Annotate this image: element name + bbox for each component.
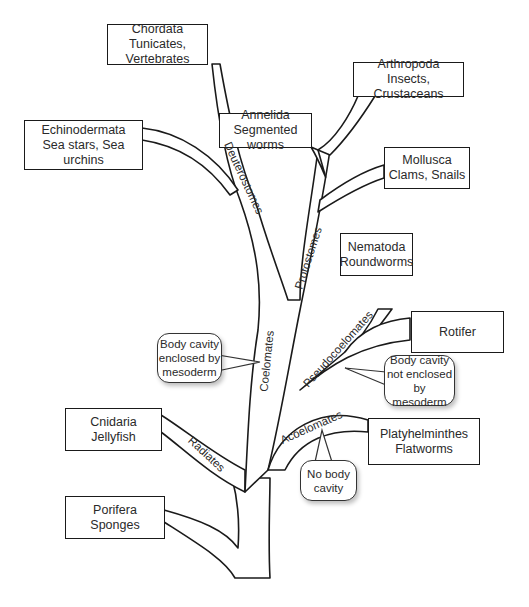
callout-coelom: Body cavity enclosed by mesoderm [157,333,222,383]
callout-text: not enclosed [387,367,452,381]
callout-acoelom: No body cavity [300,460,357,501]
callout-text: Body cavity [160,337,219,351]
callout-text: cavity [314,481,343,495]
callout-pointers [0,0,529,607]
callout-text: mesoderm [162,365,216,379]
callout-text: No body [307,467,350,481]
callout-pseudocoelom: Body cavity not enclosed by mesoderm [384,355,455,406]
callout-text: Body cavity [390,353,449,367]
callout-text: enclosed by [159,351,220,365]
callout-text: by mesoderm [385,381,454,409]
